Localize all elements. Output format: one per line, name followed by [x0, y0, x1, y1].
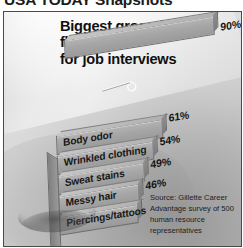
infographic-panel: Biggest grooming red flags for job inter… — [3, 11, 242, 247]
source-attribution: Source: Gillette Career Advantage survey… — [150, 192, 234, 236]
chart-bar-value: 46% — [145, 176, 166, 191]
chart-bar-row: Wrinkled clothing 54% — [57, 156, 58, 175]
masthead: USA TODAY Snapshots — [4, 0, 239, 9]
chart-bar-row: Sweat stains 49% — [58, 176, 59, 195]
chart-bar-value: 61% — [168, 108, 189, 123]
chart-bar-row: Body odor 61% — [56, 136, 57, 155]
chart-bar-value: 90% — [220, 17, 241, 32]
chart-bar-value: 49% — [150, 155, 171, 170]
chart-bar-value: 54% — [159, 132, 180, 147]
usa-today-snapshot: USA TODAY Snapshots Biggest grooming red… — [0, 0, 243, 248]
chart-bar-row: 90% — [64, 40, 65, 59]
masthead-brand: USA TODAY Snapshots — [4, 0, 239, 9]
